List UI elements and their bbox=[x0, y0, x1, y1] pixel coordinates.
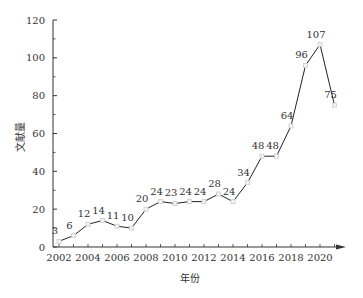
data-label: 107 bbox=[306, 29, 325, 40]
data-label: 23 bbox=[165, 187, 178, 198]
y-tick-label: 0 bbox=[39, 242, 45, 253]
data-point-marker bbox=[231, 200, 235, 204]
x-tick-label: 2012 bbox=[191, 252, 216, 263]
data-point-marker bbox=[57, 239, 61, 243]
line-chart: 0204060801001202002200420062008201020122… bbox=[0, 0, 363, 298]
x-tick-label: 2006 bbox=[104, 252, 129, 263]
x-tick-label: 2014 bbox=[220, 252, 245, 263]
data-point-marker bbox=[86, 222, 90, 226]
data-label: 48 bbox=[252, 140, 265, 151]
y-tick-label: 60 bbox=[32, 128, 45, 139]
data-label: 24 bbox=[150, 186, 163, 197]
data-point-marker bbox=[101, 219, 105, 223]
data-label: 14 bbox=[92, 205, 105, 216]
data-point-marker bbox=[246, 181, 250, 185]
data-point-marker bbox=[304, 63, 308, 67]
data-point-marker bbox=[260, 154, 264, 158]
data-label: 10 bbox=[121, 212, 134, 223]
y-tick-label: 120 bbox=[26, 15, 45, 26]
data-label: 28 bbox=[208, 178, 221, 189]
data-label: 6 bbox=[66, 220, 72, 231]
data-label: 75 bbox=[324, 89, 337, 100]
x-tick-label: 2020 bbox=[307, 252, 332, 263]
data-label: 34 bbox=[237, 167, 250, 178]
x-tick-label: 2002 bbox=[46, 252, 71, 263]
data-label: 24 bbox=[179, 186, 192, 197]
x-tick-label: 2018 bbox=[278, 252, 303, 263]
y-tick-label: 40 bbox=[32, 166, 45, 177]
data-point-marker bbox=[333, 103, 337, 107]
data-point-marker bbox=[289, 124, 293, 128]
x-axis-title: 年份 bbox=[180, 272, 200, 284]
y-tick-label: 20 bbox=[32, 204, 45, 215]
x-tick-label: 2008 bbox=[133, 252, 158, 263]
data-point-marker bbox=[202, 200, 206, 204]
data-label: 3 bbox=[52, 225, 58, 236]
x-tick-label: 2016 bbox=[249, 252, 274, 263]
data-point-marker bbox=[144, 207, 148, 211]
data-label: 12 bbox=[78, 208, 91, 219]
data-label: 24 bbox=[194, 186, 207, 197]
data-point-marker bbox=[72, 234, 76, 238]
x-tick-label: 2004 bbox=[75, 252, 100, 263]
data-point-marker bbox=[159, 200, 163, 204]
data-point-marker bbox=[188, 200, 192, 204]
data-point-marker bbox=[115, 224, 119, 228]
data-label: 20 bbox=[136, 193, 149, 204]
data-point-marker bbox=[217, 192, 221, 196]
data-label: 48 bbox=[266, 140, 279, 151]
data-label: 64 bbox=[281, 110, 294, 121]
data-label: 24 bbox=[223, 186, 236, 197]
data-label: 11 bbox=[107, 210, 120, 221]
x-axis-arrow-icon bbox=[336, 245, 346, 250]
data-series: 361214111020242324242824344848649610775 bbox=[52, 29, 337, 244]
x-tick-label: 2010 bbox=[162, 252, 187, 263]
data-point-marker bbox=[318, 43, 322, 47]
data-label: 96 bbox=[295, 49, 308, 60]
y-axis-title: 文献量 bbox=[14, 122, 26, 152]
data-point-marker bbox=[130, 226, 134, 230]
data-point-marker bbox=[275, 154, 279, 158]
y-tick-label: 80 bbox=[32, 90, 45, 101]
y-tick-label: 100 bbox=[26, 52, 45, 63]
data-point-marker bbox=[173, 201, 177, 205]
